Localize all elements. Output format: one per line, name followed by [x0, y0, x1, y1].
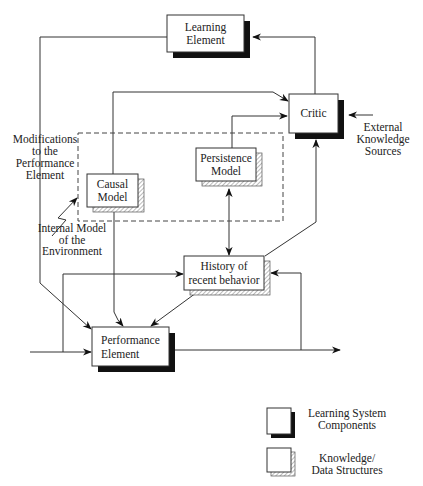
svg-text:Sources: Sources [365, 145, 402, 157]
svg-text:Internal Model: Internal Model [38, 222, 107, 234]
svg-text:to the: to the [32, 145, 58, 157]
node-history: History of recent behavior [184, 256, 270, 295]
label-internal-model: Internal Model of the Environment [38, 222, 107, 257]
legend-component: Learning System Components [267, 407, 386, 438]
history-label-2: recent behavior [188, 274, 259, 286]
node-critic: Critic [289, 94, 344, 139]
svg-text:Performance: Performance [16, 157, 75, 169]
edge-history-to-critic [265, 140, 316, 256]
performance-element-label-1: Performance [101, 334, 160, 346]
legend-knowledge: Knowledge/ Data Structures [267, 448, 383, 476]
svg-text:Modifications: Modifications [13, 133, 78, 145]
persistence-model-label-2: Model [211, 165, 241, 177]
label-external-knowledge: External Knowledge Sources [356, 121, 409, 157]
node-learning-element: Learning Element [167, 15, 250, 58]
svg-text:External: External [364, 121, 403, 133]
causal-model-label-1: Causal [97, 178, 128, 190]
label-modifications: Modifications to the Performance Element [13, 133, 78, 181]
connections [30, 37, 373, 352]
legend: Learning System Components Knowledge/ Da… [267, 407, 386, 476]
edge-persistence-to-critic [232, 116, 287, 148]
legend-component-label-2: Components [318, 419, 377, 432]
edge-history-to-performance [151, 293, 196, 326]
node-persistence-model: Persistence Model [196, 148, 262, 186]
edge-output-to-history [271, 273, 301, 350]
learning-element-label-2: Element [186, 34, 225, 46]
causal-model-label-2: Model [97, 191, 127, 203]
edge-critic-to-learning [253, 37, 315, 94]
svg-text:Element: Element [26, 169, 65, 181]
node-performance-element: Performance Element [92, 327, 175, 372]
critic-label: Critic [300, 107, 326, 119]
svg-text:Environment: Environment [42, 245, 103, 257]
node-causal-model: Causal Model [87, 174, 144, 212]
legend-knowledge-label-2: Data Structures [311, 464, 383, 476]
history-label-1: History of [201, 260, 248, 273]
learning-element-label-1: Learning [185, 21, 227, 34]
edge-causal-to-performance [114, 212, 123, 326]
performance-element-label-2: Element [101, 348, 140, 360]
persistence-model-label-1: Persistence [200, 152, 252, 164]
learning-system-diagram: Learning Element Critic Persistence Mode… [0, 0, 423, 486]
